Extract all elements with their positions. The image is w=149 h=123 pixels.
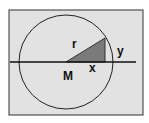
label-y: y — [117, 44, 124, 58]
label-r: r — [72, 37, 77, 51]
circle-triangle-diagram: r y x M — [0, 0, 149, 123]
label-m: M — [63, 69, 73, 83]
label-x: x — [89, 61, 96, 75]
